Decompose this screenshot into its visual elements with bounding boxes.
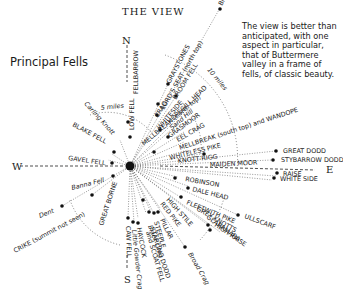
label-fellbarrow: FELLBARROW xyxy=(132,49,140,94)
label-ullscarf: ULLSCARF xyxy=(243,212,277,231)
label-dent: Dent xyxy=(38,206,56,219)
label-great-borne: GREAT BORNE xyxy=(97,181,119,227)
ring-label-5-miles: 5 miles xyxy=(100,102,125,112)
compass-east: E xyxy=(326,164,333,175)
viewpoint-marker xyxy=(126,162,135,171)
compass-south: S xyxy=(124,274,131,285)
view-indicator-diagram: N S W E xyxy=(0,0,343,300)
label-binsey: BINSEY xyxy=(217,0,235,7)
label-banna-fell: Banna Fell xyxy=(71,176,106,192)
compass-north: N xyxy=(122,35,131,46)
label-gavel-fell: GAVEL FELL xyxy=(68,154,107,167)
label-white-side: WHITE SIDE xyxy=(280,175,318,183)
label-crike: CRIKE (summit not seen) xyxy=(12,210,86,255)
label-low-fell: LOW FELL xyxy=(128,98,136,130)
compass-west: W xyxy=(12,161,23,172)
label-maiden-moor: MAIDEN MOOR xyxy=(210,158,258,169)
label-stybarrow-dodd: STYBARROW DODD xyxy=(281,156,343,164)
ring-label-10-miles: 10 miles xyxy=(205,66,229,92)
label-great-dodd: GREAT DODD xyxy=(283,147,326,155)
label-broad-crag: Broad Crag xyxy=(186,251,211,286)
label-dale-head: DALE HEAD xyxy=(192,185,230,202)
label-caw-fell: CAW FELL xyxy=(124,226,133,258)
